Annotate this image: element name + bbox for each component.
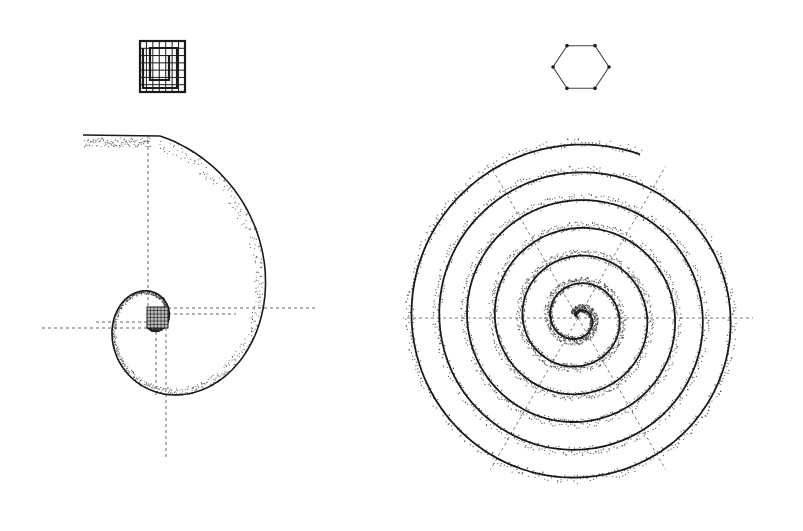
spiral-diagram bbox=[0, 0, 803, 531]
hexagon-icon bbox=[551, 44, 611, 90]
right-dashed-radial-guides bbox=[403, 166, 753, 469]
center-grid-square bbox=[147, 307, 168, 328]
left-dashed-guides bbox=[42, 135, 315, 460]
right-stipple-shading bbox=[405, 138, 737, 484]
left-stipple-shading bbox=[84, 137, 264, 395]
square-grid-icon bbox=[140, 41, 185, 92]
archimedean-spiral-panel bbox=[403, 44, 753, 484]
logarithmic-spiral-panel bbox=[42, 41, 315, 460]
